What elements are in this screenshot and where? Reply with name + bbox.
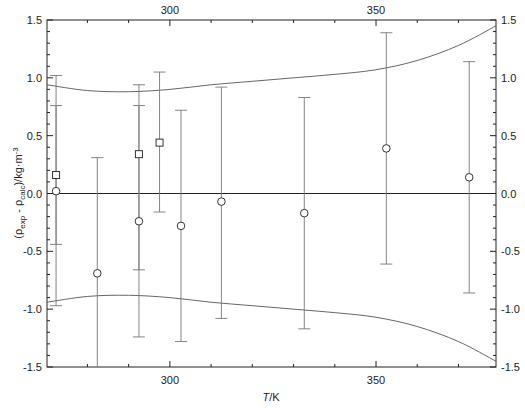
y-tick-label-right: -0.5 [501, 245, 520, 257]
y-tick-label-left: 0.0 [27, 188, 42, 200]
data-point-circle [94, 270, 102, 278]
density-deviation-chart: -1.5-1.5-1.0-1.0-0.5-0.50.00.00.50.51.01… [0, 0, 525, 408]
upper-uncertainty-band [47, 26, 496, 92]
data-point-square [53, 171, 60, 178]
x-tick-label-bottom: 300 [161, 374, 179, 386]
y-tick-label-left: -1.5 [23, 361, 42, 373]
plot-svg: -1.5-1.5-1.0-1.0-0.5-0.50.00.00.50.51.01… [0, 0, 525, 408]
data-point-circle [383, 145, 391, 153]
data-point-circle [218, 198, 226, 206]
y-tick-label-left: 0.5 [27, 130, 42, 142]
y-axis-label: (ρexp - ρcalc)/kg·m-3 [11, 147, 27, 239]
y-tick-label-left: -1.0 [23, 303, 42, 315]
x-axis-label: T/K [262, 391, 280, 403]
data-markers [52, 139, 473, 277]
error-bars [50, 33, 475, 367]
y-tick-label-right: 1.0 [501, 72, 516, 84]
data-point-circle [300, 209, 308, 217]
y-tick-label-left: -0.5 [23, 245, 42, 257]
data-point-circle [177, 222, 185, 230]
y-tick-label-left: 1.5 [27, 14, 42, 26]
y-tick-label-right: 0.5 [501, 130, 516, 142]
y-tick-label-right: -1.5 [501, 361, 520, 373]
x-tick-label-top: 300 [161, 4, 179, 16]
data-point-square [135, 151, 142, 158]
y-tick-label-right: 0.0 [501, 188, 516, 200]
axes [47, 20, 496, 367]
data-point-circle [465, 174, 473, 182]
data-point-circle [135, 217, 143, 225]
data-point-square [156, 139, 163, 146]
y-tick-label-right: -1.0 [501, 303, 520, 315]
data-point-circle [52, 187, 60, 195]
x-tick-label-top: 350 [367, 4, 385, 16]
x-tick-label-bottom: 350 [367, 374, 385, 386]
y-tick-label-left: 1.0 [27, 72, 42, 84]
lower-uncertainty-band [47, 295, 496, 361]
y-tick-label-right: 1.5 [501, 14, 516, 26]
